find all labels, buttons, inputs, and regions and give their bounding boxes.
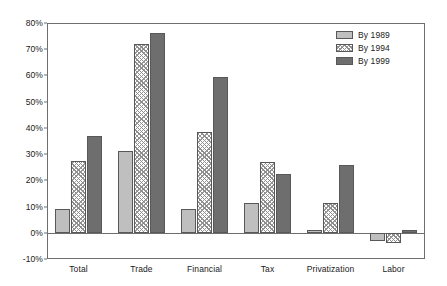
y-axis-tick-mark bbox=[44, 49, 47, 50]
x-axis-tick-label: Financial bbox=[187, 264, 222, 274]
y-axis-tick-label: 60% bbox=[26, 70, 43, 80]
bar bbox=[244, 203, 259, 233]
x-axis-tick-label: Labor bbox=[382, 264, 404, 274]
bar-group bbox=[173, 23, 236, 259]
legend-item[interactable]: By 1989 bbox=[336, 29, 390, 41]
y-axis-tick-label: 40% bbox=[26, 123, 43, 133]
legend-label: By 1999 bbox=[358, 56, 390, 66]
bar bbox=[323, 203, 338, 233]
bar bbox=[276, 174, 291, 233]
x-axis-tick-label: Trade bbox=[130, 264, 152, 274]
y-axis-tick-mark bbox=[44, 101, 47, 102]
bar bbox=[87, 136, 102, 233]
bar bbox=[181, 209, 196, 233]
bar bbox=[339, 165, 354, 233]
y-axis-tick-mark bbox=[44, 127, 47, 128]
legend-swatch bbox=[336, 44, 353, 52]
y-axis-tick-label: 0% bbox=[31, 228, 44, 238]
legend-item[interactable]: By 1999 bbox=[336, 55, 390, 67]
bar-group bbox=[236, 23, 299, 259]
legend-item[interactable]: By 1994 bbox=[336, 42, 390, 54]
y-axis-tick-label: 50% bbox=[26, 97, 43, 107]
y-axis-tick-label: 80% bbox=[26, 18, 43, 28]
y-axis-tick-label: 30% bbox=[26, 149, 43, 159]
bar bbox=[402, 230, 417, 233]
bar bbox=[71, 161, 86, 233]
x-axis-tick-label: Privatization bbox=[307, 264, 355, 274]
bar bbox=[150, 33, 165, 232]
y-axis-tick-mark bbox=[44, 23, 47, 24]
bar-group bbox=[47, 23, 110, 259]
bar bbox=[134, 44, 149, 233]
x-axis-tick-label: Total bbox=[69, 264, 87, 274]
bar bbox=[55, 209, 70, 233]
legend-label: By 1994 bbox=[358, 43, 390, 53]
legend-swatch bbox=[336, 31, 353, 39]
y-axis: 80%70%60%50%40%30%20%10%0%-10% bbox=[0, 0, 43, 286]
bar bbox=[370, 233, 385, 241]
bar bbox=[386, 233, 401, 243]
bar bbox=[213, 77, 228, 233]
bar bbox=[307, 230, 322, 233]
legend: By 1989By 1994By 1999 bbox=[336, 29, 390, 68]
bar-group bbox=[110, 23, 173, 259]
legend-swatch bbox=[336, 57, 353, 65]
y-axis-tick-mark bbox=[44, 180, 47, 181]
legend-label: By 1989 bbox=[358, 30, 390, 40]
y-axis-tick-label: 20% bbox=[26, 175, 43, 185]
bar bbox=[260, 162, 275, 233]
y-axis-tick-label: 70% bbox=[26, 44, 43, 54]
y-axis-tick-mark bbox=[44, 154, 47, 155]
bar-chart: 80%70%60%50%40%30%20%10%0%-10% By 1989By… bbox=[0, 0, 447, 286]
bar bbox=[197, 132, 212, 233]
x-axis-tick-label: Tax bbox=[261, 264, 275, 274]
y-axis-tick-label: 10% bbox=[26, 202, 43, 212]
bar bbox=[118, 151, 133, 232]
y-axis-tick-mark bbox=[44, 232, 47, 233]
y-axis-tick-mark bbox=[44, 206, 47, 207]
y-axis-tick-mark bbox=[44, 75, 47, 76]
y-axis-tick-label: -10% bbox=[23, 254, 43, 264]
y-axis-tick-mark bbox=[44, 259, 47, 260]
